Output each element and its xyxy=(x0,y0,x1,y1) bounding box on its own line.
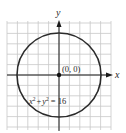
equation-rhs: 16 xyxy=(58,96,67,106)
x-axis-arrow-icon xyxy=(106,73,113,78)
center-label: (0, 0) xyxy=(62,64,81,74)
coordinate-plane: x y (0, 0) x2+y2=16 xyxy=(0,0,126,133)
x-axis-label: x xyxy=(114,69,120,80)
center-point xyxy=(57,73,61,77)
circle-figure: x y (0, 0) x2+y2=16 xyxy=(0,0,126,133)
equation-equals: = xyxy=(51,96,56,106)
y-axis-arrow-icon xyxy=(57,20,62,27)
equation-x-exponent: 2 xyxy=(33,96,36,102)
y-axis-label: y xyxy=(55,7,61,18)
equation-y-exponent: 2 xyxy=(46,96,49,102)
equation-plus: + xyxy=(37,96,42,106)
equation-label: x2+y2=16 xyxy=(28,96,66,107)
